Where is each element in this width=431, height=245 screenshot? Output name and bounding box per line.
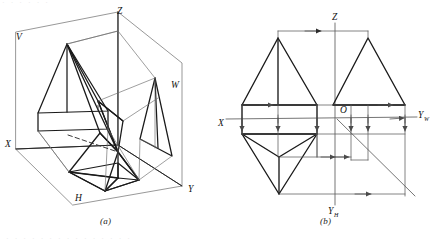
reference-axes: [226, 23, 417, 205]
panel-axonometric: Z V W H X Y (a): [0, 0, 215, 245]
mitre-line-45: [337, 119, 415, 196]
top-view: [242, 134, 317, 194]
axis-label-z: Z: [332, 12, 338, 22]
side-view-on-w: [140, 78, 172, 156]
plane-label-v: V: [16, 32, 23, 42]
axis-label-z: Z: [117, 6, 123, 16]
plane-label-w: W: [171, 80, 180, 90]
svg-text:H: H: [333, 212, 339, 218]
axis-label-yw: Y W: [418, 110, 430, 122]
panel-a-drawing: Z V W H X Y: [0, 0, 215, 245]
axis-label-y: Y: [188, 184, 195, 194]
panel-orthographic: Z O X Y W Y H (b): [215, 0, 431, 245]
construction-lines: [242, 31, 405, 196]
origin-label-o: O: [340, 105, 347, 115]
axis-label-x: X: [217, 118, 225, 128]
axes-group: [16, 12, 182, 186]
axis-x-yw: [226, 117, 417, 119]
front-view: [242, 38, 317, 134]
panel-a-caption: (a): [100, 216, 111, 226]
plane-h-outline: [16, 145, 182, 205]
svg-text:W: W: [424, 116, 430, 122]
panel-b-drawing: Z O X Y W Y H: [215, 0, 431, 245]
panel-b-caption: (b): [320, 216, 331, 226]
figure-root: · · · · · · · · · · · · · · · · · · · · …: [0, 0, 431, 245]
axis-x: [16, 145, 118, 149]
plane-label-h: H: [74, 193, 83, 203]
axis-label-x: X: [4, 139, 12, 149]
projection-arrows: [242, 31, 405, 194]
side-view: [333, 38, 405, 105]
